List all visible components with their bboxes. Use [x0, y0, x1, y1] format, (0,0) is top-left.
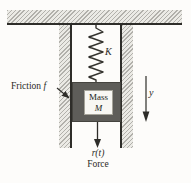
- friction-arrow-icon: [55, 85, 77, 105]
- force-word-label: Force: [80, 159, 116, 170]
- ceiling-hatch: [7, 10, 182, 25]
- friction-symbol: f: [43, 81, 46, 91]
- spring-icon: [85, 25, 107, 83]
- force-arrow-icon: [90, 122, 105, 150]
- displacement-label: y: [149, 87, 153, 98]
- right-wall-hatch: [120, 25, 133, 148]
- mass-word-label: Mass: [89, 92, 108, 102]
- friction-word: Friction: [11, 81, 41, 91]
- force-symbol-label: r(t): [80, 148, 116, 159]
- displacement-arrow-icon: [139, 75, 155, 125]
- mass-symbol-label: M: [95, 103, 103, 113]
- spring-constant-label: K: [105, 46, 112, 57]
- friction-label: Friction f: [11, 81, 46, 92]
- mass-label-box: Mass M: [84, 90, 113, 115]
- mass-block: Mass M: [72, 82, 121, 122]
- diagram-canvas: K Mass M Friction f y r(t) Force: [0, 0, 191, 183]
